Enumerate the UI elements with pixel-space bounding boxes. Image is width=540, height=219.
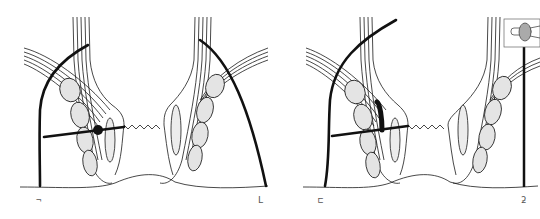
panel-left: ¬ L: [0, 0, 270, 219]
probe-inset: [504, 19, 540, 47]
panel-label-left-a: ¬: [36, 196, 41, 205]
panel-right: ⊏ ƻ: [270, 0, 540, 219]
panel-label-left-b: L: [258, 196, 263, 205]
diagram-left: [0, 0, 270, 219]
skin-line: [20, 175, 268, 188]
diagram-right: [270, 0, 540, 219]
internal-opening: [93, 125, 103, 135]
panel-label-right-b: ƻ: [521, 196, 526, 205]
skin-line: [303, 175, 538, 188]
panel-label-right-a: ⊏: [318, 196, 323, 205]
